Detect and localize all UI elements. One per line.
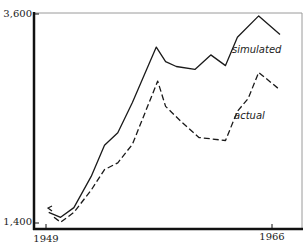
- simulated-start-marker: [48, 206, 52, 211]
- plot-area: [0, 0, 307, 249]
- actual-line: [54, 72, 280, 222]
- y-tick-label-bottom: 1,400: [2, 216, 32, 227]
- line-chart: 3,600 1,400 1949 1966 simulated actual: [0, 0, 307, 249]
- x-tick-label-right: 1966: [255, 231, 289, 242]
- actual-series-label: actual: [234, 110, 265, 121]
- y-tick-label-top: 3,600: [2, 8, 32, 19]
- simulated-series-label: simulated: [232, 44, 281, 55]
- x-tick-label-left: 1949: [29, 233, 63, 244]
